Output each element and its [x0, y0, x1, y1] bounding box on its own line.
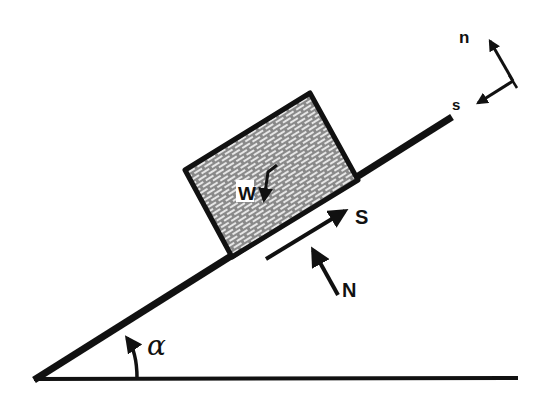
n-axis-label: n	[459, 28, 469, 47]
s-axis-arrow	[478, 81, 513, 103]
angle-arc	[127, 338, 137, 378]
weight-label: W	[238, 183, 256, 204]
inclined-plane-diagram: W S N α n s	[0, 0, 550, 406]
block	[185, 93, 358, 257]
normal-force-label: N	[342, 279, 356, 301]
s-axis-label: s	[452, 96, 460, 113]
friction-force-label: S	[355, 206, 368, 228]
ground-line	[34, 378, 518, 379]
normal-force-arrow	[313, 250, 338, 295]
coordinate-axes	[478, 41, 517, 103]
angle-label: α	[147, 329, 166, 362]
